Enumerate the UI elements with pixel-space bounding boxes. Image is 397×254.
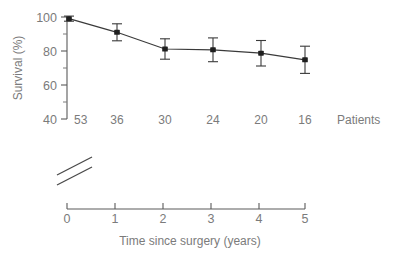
y-axis-group: 100 80 60 40 Survival (%) (11, 11, 67, 127)
data-point-year-5 (302, 57, 308, 62)
patient-count-year-0: 53 (74, 113, 88, 127)
x-tick-label-0: 0 (64, 212, 71, 226)
patient-count-year-3: 24 (206, 113, 220, 127)
patient-count-year-5: 16 (298, 113, 312, 127)
x-tick-label-2: 2 (160, 212, 167, 226)
x-axis-group: 0 1 2 3 4 5 Time since surgery (years) (64, 203, 309, 248)
x-tick-label-5: 5 (302, 212, 309, 226)
data-point-year-3 (210, 47, 216, 52)
data-point-year-1 (114, 30, 120, 35)
x-axis-title: Time since surgery (years) (119, 234, 261, 248)
y-tick-label-40: 40 (43, 113, 57, 127)
data-point-year-4 (258, 51, 264, 56)
x-tick-label-1: 1 (112, 212, 119, 226)
x-tick-label-3: 3 (208, 212, 215, 226)
axis-break-mark (57, 157, 92, 185)
data-point-year-0 (66, 16, 72, 21)
chart-svg: 100 80 60 40 Survival (%) (0, 0, 397, 254)
y-axis-title: Survival (%) (11, 36, 25, 101)
x-tick-label-4: 4 (256, 212, 263, 226)
y-tick-label-80: 80 (43, 45, 57, 59)
y-tick-label-100: 100 (36, 11, 57, 25)
patients-label: Patients (337, 113, 380, 127)
data-point-year-2 (162, 47, 168, 52)
survival-curve-figure: 100 80 60 40 Survival (%) (0, 0, 397, 254)
data-series-survival (64, 16, 310, 73)
patient-count-year-1: 36 (110, 113, 124, 127)
patient-count-year-2: 30 (158, 113, 172, 127)
patients-at-risk-row: 53 36 30 24 20 16 Patients (74, 113, 380, 127)
series-line (69, 19, 305, 60)
patient-count-year-4: 20 (254, 113, 268, 127)
y-tick-label-60: 60 (43, 79, 57, 93)
